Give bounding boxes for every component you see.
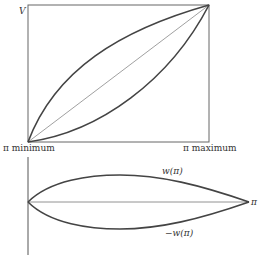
- upper-curve-w: [28, 175, 249, 202]
- y-axis-label: V: [19, 6, 27, 16]
- upper-curve-label: w(π): [162, 166, 183, 176]
- diagonal-line: [28, 5, 209, 142]
- bottom-diagram: w(π) −w(π) π: [28, 157, 258, 255]
- lower-curve-neg-w: [28, 202, 249, 229]
- lower-curve-label: −w(π): [165, 228, 194, 238]
- x-max-label: π maximum: [183, 143, 237, 153]
- figure: V π minimum π maximum w(π) −w(π) π: [0, 0, 261, 267]
- x-min-label: π minimum: [3, 143, 55, 153]
- x-axis-label: π: [250, 197, 258, 207]
- top-diagram: V π minimum π maximum: [3, 5, 237, 153]
